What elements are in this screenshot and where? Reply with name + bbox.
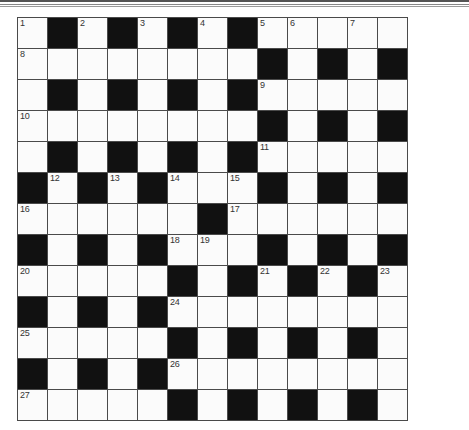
answer-cell[interactable] — [138, 111, 167, 141]
answer-cell[interactable] — [168, 111, 197, 141]
answer-cell[interactable] — [168, 49, 197, 79]
answer-cell[interactable] — [48, 111, 77, 141]
answer-cell[interactable] — [288, 359, 317, 389]
answer-cell[interactable] — [378, 204, 407, 234]
answer-cell[interactable] — [348, 173, 377, 203]
answer-cell[interactable]: 13 — [108, 173, 137, 203]
answer-cell[interactable]: 19 — [198, 235, 227, 265]
answer-cell[interactable] — [48, 235, 77, 265]
answer-cell[interactable] — [198, 359, 227, 389]
answer-cell[interactable] — [258, 390, 287, 420]
answer-cell[interactable]: 6 — [288, 18, 317, 48]
answer-cell[interactable] — [198, 142, 227, 172]
answer-cell[interactable] — [108, 359, 137, 389]
answer-cell[interactable] — [318, 297, 347, 327]
answer-cell[interactable] — [138, 390, 167, 420]
answer-cell[interactable] — [348, 80, 377, 110]
answer-cell[interactable] — [108, 328, 137, 358]
answer-cell[interactable] — [378, 390, 407, 420]
answer-cell[interactable] — [108, 297, 137, 327]
answer-cell[interactable] — [228, 297, 257, 327]
answer-cell[interactable] — [348, 235, 377, 265]
answer-cell[interactable] — [288, 142, 317, 172]
answer-cell[interactable]: 22 — [318, 266, 347, 296]
answer-cell[interactable] — [48, 390, 77, 420]
answer-cell[interactable]: 4 — [198, 18, 227, 48]
answer-cell[interactable]: 16 — [18, 204, 47, 234]
answer-cell[interactable] — [138, 328, 167, 358]
answer-cell[interactable] — [378, 359, 407, 389]
answer-cell[interactable]: 17 — [228, 204, 257, 234]
answer-cell[interactable] — [48, 204, 77, 234]
answer-cell[interactable] — [78, 49, 107, 79]
answer-cell[interactable]: 26 — [168, 359, 197, 389]
answer-cell[interactable] — [348, 204, 377, 234]
answer-cell[interactable] — [108, 390, 137, 420]
answer-cell[interactable] — [108, 49, 137, 79]
answer-cell[interactable] — [318, 204, 347, 234]
answer-cell[interactable] — [108, 235, 137, 265]
answer-cell[interactable] — [228, 359, 257, 389]
answer-cell[interactable] — [48, 328, 77, 358]
answer-cell[interactable] — [348, 49, 377, 79]
answer-cell[interactable] — [228, 49, 257, 79]
answer-cell[interactable] — [228, 111, 257, 141]
answer-cell[interactable]: 20 — [18, 266, 47, 296]
answer-cell[interactable] — [318, 390, 347, 420]
answer-cell[interactable] — [258, 328, 287, 358]
answer-cell[interactable] — [318, 359, 347, 389]
answer-cell[interactable] — [78, 266, 107, 296]
answer-cell[interactable] — [378, 80, 407, 110]
answer-cell[interactable] — [138, 80, 167, 110]
answer-cell[interactable] — [288, 49, 317, 79]
answer-cell[interactable]: 3 — [138, 18, 167, 48]
answer-cell[interactable]: 23 — [378, 266, 407, 296]
answer-cell[interactable] — [348, 142, 377, 172]
answer-cell[interactable]: 10 — [18, 111, 47, 141]
answer-cell[interactable] — [78, 204, 107, 234]
answer-cell[interactable] — [48, 49, 77, 79]
answer-cell[interactable] — [258, 359, 287, 389]
answer-cell[interactable]: 5 — [258, 18, 287, 48]
answer-cell[interactable] — [78, 111, 107, 141]
answer-cell[interactable] — [48, 359, 77, 389]
answer-cell[interactable] — [288, 235, 317, 265]
answer-cell[interactable]: 1 — [18, 18, 47, 48]
answer-cell[interactable] — [288, 111, 317, 141]
answer-cell[interactable] — [198, 328, 227, 358]
answer-cell[interactable]: 7 — [348, 18, 377, 48]
answer-cell[interactable] — [318, 142, 347, 172]
answer-cell[interactable] — [108, 266, 137, 296]
answer-cell[interactable] — [78, 328, 107, 358]
answer-cell[interactable] — [288, 204, 317, 234]
answer-cell[interactable]: 11 — [258, 142, 287, 172]
answer-cell[interactable]: 14 — [168, 173, 197, 203]
answer-cell[interactable] — [78, 80, 107, 110]
answer-cell[interactable] — [198, 80, 227, 110]
answer-cell[interactable]: 12 — [48, 173, 77, 203]
answer-cell[interactable] — [348, 297, 377, 327]
answer-cell[interactable] — [108, 204, 137, 234]
answer-cell[interactable] — [318, 328, 347, 358]
answer-cell[interactable]: 25 — [18, 328, 47, 358]
answer-cell[interactable] — [138, 204, 167, 234]
answer-cell[interactable] — [168, 204, 197, 234]
answer-cell[interactable] — [318, 80, 347, 110]
answer-cell[interactable] — [378, 328, 407, 358]
answer-cell[interactable] — [198, 49, 227, 79]
answer-cell[interactable] — [18, 142, 47, 172]
answer-cell[interactable] — [378, 297, 407, 327]
answer-cell[interactable]: 8 — [18, 49, 47, 79]
answer-cell[interactable]: 9 — [258, 80, 287, 110]
answer-cell[interactable] — [138, 49, 167, 79]
answer-cell[interactable] — [228, 235, 257, 265]
answer-cell[interactable] — [48, 297, 77, 327]
answer-cell[interactable]: 24 — [168, 297, 197, 327]
answer-cell[interactable] — [138, 142, 167, 172]
answer-cell[interactable] — [348, 111, 377, 141]
answer-cell[interactable] — [198, 390, 227, 420]
answer-cell[interactable] — [378, 142, 407, 172]
answer-cell[interactable] — [288, 297, 317, 327]
answer-cell[interactable] — [108, 111, 137, 141]
answer-cell[interactable] — [18, 80, 47, 110]
